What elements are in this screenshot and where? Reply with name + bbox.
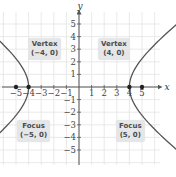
x-tick-label: 2 xyxy=(101,88,106,98)
callout-title: Vertex xyxy=(101,40,127,49)
y-tick-label: −4 xyxy=(63,132,76,142)
callout-coords: (5, 0) xyxy=(119,131,142,140)
vertex-left-point xyxy=(26,85,30,89)
y-tick-label: −2 xyxy=(63,107,76,117)
callout-vertex-left: Vertex (−4, 0) xyxy=(28,38,61,60)
callout-focus-left: Focus (−5, 0) xyxy=(17,120,50,142)
y-tick-label: −3 xyxy=(63,120,76,130)
x-tick-label: 3 xyxy=(114,88,119,98)
callout-coords: (−4, 0) xyxy=(31,49,58,58)
y-axis-label: y xyxy=(76,1,83,11)
x-tick-label: 5 xyxy=(139,88,144,98)
y-tick-label: 5 xyxy=(71,19,76,29)
x-tick-label: −2 xyxy=(48,88,61,98)
callout-title: Focus xyxy=(20,122,47,131)
callout-focus-right: Focus (5, 0) xyxy=(116,120,145,142)
y-tick-label: 4 xyxy=(71,32,76,42)
y-tick-label: 2 xyxy=(71,57,76,67)
y-tick-label: −1 xyxy=(63,95,76,105)
callout-coords: (−5, 0) xyxy=(20,131,47,140)
x-axis-label: x xyxy=(164,82,169,92)
x-tick-label: −4 xyxy=(22,88,35,98)
x-tick-label: 1 xyxy=(89,88,94,98)
hyperbola-plot: xy −5−4−3−2−11234554321−1−2−3−4−5 xyxy=(0,0,176,177)
y-tick-label: 3 xyxy=(71,44,76,54)
x-tick-label: −5 xyxy=(10,88,23,98)
focus-left-point xyxy=(14,85,18,89)
callout-title: Vertex xyxy=(31,40,58,49)
focus-right-point xyxy=(140,85,144,89)
y-tick-label: −5 xyxy=(63,145,76,155)
vertex-right-point xyxy=(127,85,131,89)
callout-title: Focus xyxy=(119,122,142,131)
x-tick-label: 4 xyxy=(127,88,132,98)
x-tick-label: −3 xyxy=(35,88,48,98)
callout-coords: (4, 0) xyxy=(101,49,127,58)
y-tick-label: 1 xyxy=(71,69,76,79)
callout-vertex-right: Vertex (4, 0) xyxy=(98,38,130,60)
